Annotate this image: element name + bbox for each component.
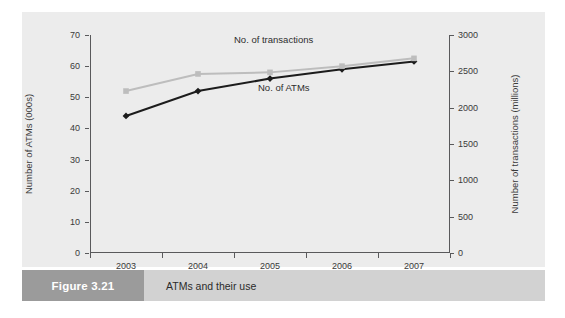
right-tick-label: 2000	[458, 103, 494, 113]
right-tick-mark	[450, 144, 454, 145]
x-tick-mark	[162, 253, 163, 258]
left-tick-label: 50	[46, 92, 80, 102]
right-tick-label: 1000	[458, 175, 494, 185]
left-tick-mark	[85, 160, 89, 161]
x-tick-mark	[378, 253, 379, 258]
series-lines	[90, 35, 450, 253]
series-label-atms: No. of ATMs	[258, 82, 310, 93]
left-tick-mark	[85, 97, 89, 98]
figure-caption-bar: Figure 3.21 ATMs and their use	[22, 270, 545, 301]
x-tick-mark	[234, 253, 235, 258]
right-tick-mark	[450, 180, 454, 181]
left-tick-label: 20	[46, 186, 80, 196]
left-tick-label: 30	[46, 155, 80, 165]
data-point-marker	[411, 56, 417, 62]
x-tick-mark	[90, 253, 91, 258]
x-tick-mark	[306, 253, 307, 258]
data-point-marker	[267, 70, 273, 76]
right-tick-label: 3000	[458, 30, 494, 40]
plot-area: 010203040506070 050010001500200025003000…	[90, 35, 450, 253]
data-point-marker	[123, 113, 130, 120]
x-tick-mark	[450, 253, 451, 258]
right-tick-label: 1500	[458, 139, 494, 149]
data-point-marker	[339, 63, 345, 69]
left-axis-title: Number of ATMs (000s)	[23, 94, 34, 194]
right-tick-mark	[450, 71, 454, 72]
right-tick-mark	[450, 108, 454, 109]
right-tick-label: 500	[458, 212, 494, 222]
right-tick-label: 2500	[458, 66, 494, 76]
left-tick-label: 0	[46, 248, 80, 258]
left-tick-label: 60	[46, 61, 80, 71]
data-point-marker	[267, 75, 274, 82]
left-tick-label: 10	[46, 217, 80, 227]
left-tick-mark	[85, 222, 89, 223]
left-tick-label: 40	[46, 123, 80, 133]
data-point-marker	[123, 88, 129, 94]
figure-container: 010203040506070 050010001500200025003000…	[22, 12, 545, 301]
data-point-marker	[195, 88, 202, 95]
left-tick-mark	[85, 191, 89, 192]
left-tick-mark	[85, 253, 89, 254]
series-label-transactions: No. of transactions	[234, 34, 313, 45]
left-tick-mark	[85, 35, 89, 36]
right-tick-mark	[450, 217, 454, 218]
figure-number-tag: Figure 3.21	[22, 270, 144, 301]
left-tick-mark	[85, 66, 89, 67]
data-point-marker	[195, 71, 201, 77]
figure-caption-text: ATMs and their use	[166, 280, 256, 292]
chart-panel: 010203040506070 050010001500200025003000…	[22, 12, 545, 267]
right-tick-label: 0	[458, 248, 494, 258]
right-tick-mark	[450, 35, 454, 36]
left-tick-label: 70	[46, 30, 80, 40]
left-tick-mark	[85, 128, 89, 129]
right-axis-title: Number of transactions (millions)	[509, 75, 520, 214]
